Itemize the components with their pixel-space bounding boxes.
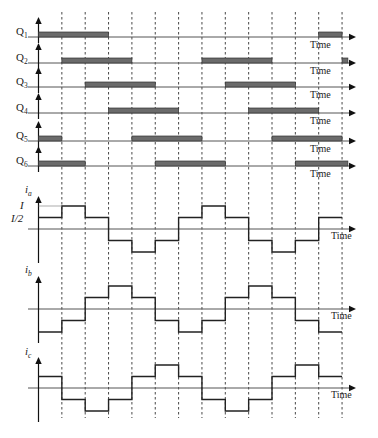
time-axis-label: Time bbox=[310, 168, 331, 179]
time-axis-label: Time bbox=[310, 39, 331, 50]
gate-signal-q6 bbox=[28, 151, 350, 172]
time-axis-label: Time bbox=[310, 89, 331, 100]
arrow-right-icon bbox=[349, 163, 356, 169]
current-label-ib: ib bbox=[25, 263, 32, 278]
arrow-right-icon bbox=[349, 84, 356, 90]
gate-on-pulse bbox=[272, 136, 342, 141]
current-label-ic: ic bbox=[25, 345, 32, 360]
gate-signal-q5 bbox=[28, 126, 350, 147]
time-axis-label: Time bbox=[331, 230, 352, 241]
arrow-right-icon bbox=[349, 60, 356, 66]
gate-on-pulse bbox=[249, 108, 319, 113]
time-axis-label: Time bbox=[310, 143, 331, 154]
arrow-right-icon bbox=[349, 110, 356, 116]
current-waveform-ib bbox=[28, 281, 350, 343]
gate-on-pulse bbox=[39, 136, 62, 141]
gate-on-pulse bbox=[85, 82, 155, 87]
time-axis-label: Time bbox=[331, 310, 352, 321]
current-waveform-ia bbox=[28, 201, 350, 263]
gate-label-q6: Q6 bbox=[16, 154, 28, 169]
arrow-right-icon bbox=[349, 34, 356, 40]
gate-on-pulse bbox=[202, 58, 272, 63]
gate-label-q2: Q2 bbox=[16, 51, 28, 66]
arrow-up-icon bbox=[35, 93, 41, 100]
gate-signal-q3 bbox=[28, 72, 350, 93]
arrow-right-icon bbox=[349, 138, 356, 144]
arrow-up-icon bbox=[35, 67, 41, 74]
gate-on-pulse bbox=[39, 32, 109, 37]
gate-label-q5: Q5 bbox=[16, 129, 28, 144]
current-waveform-ic bbox=[28, 362, 350, 422]
arrow-up-icon bbox=[35, 17, 41, 24]
arrow-up-icon bbox=[35, 121, 41, 128]
gate-signal-q2 bbox=[28, 48, 350, 69]
level-label-half-i: I/2 bbox=[10, 212, 24, 224]
time-axis-label: Time bbox=[310, 65, 331, 76]
gate-signal-q4 bbox=[28, 98, 350, 119]
arrow-up-icon bbox=[35, 196, 41, 203]
level-label-i: I bbox=[19, 199, 25, 211]
gate-on-pulse bbox=[225, 82, 295, 87]
gate-on-pulse bbox=[155, 161, 225, 166]
gate-on-pulse bbox=[39, 161, 86, 166]
time-axis-label: Time bbox=[310, 115, 331, 126]
gate-label-q1: Q1 bbox=[16, 25, 28, 40]
gate-on-pulse bbox=[132, 136, 202, 141]
gate-on-pulse bbox=[62, 58, 132, 63]
gate-on-pulse bbox=[319, 32, 342, 37]
gate-on-pulse bbox=[342, 58, 348, 63]
arrow-up-icon bbox=[35, 276, 41, 283]
arrow-up-icon bbox=[35, 357, 41, 364]
arrow-up-icon bbox=[35, 43, 41, 50]
gate-signal-q1 bbox=[28, 22, 350, 43]
inverter-timing-diagram: Q1TimeQ2TimeQ3TimeQ4TimeQ5TimeQ6TimeiaII… bbox=[0, 0, 378, 438]
time-axis-label: Time bbox=[331, 389, 352, 400]
gate-on-pulse bbox=[295, 161, 348, 166]
gate-on-pulse bbox=[109, 108, 179, 113]
arrow-up-icon bbox=[35, 146, 41, 153]
gate-label-q3: Q3 bbox=[16, 75, 28, 90]
current-label-ia: ia bbox=[25, 183, 32, 198]
timing-diagram-canvas: Q1TimeQ2TimeQ3TimeQ4TimeQ5TimeQ6TimeiaII… bbox=[0, 0, 378, 438]
gate-label-q4: Q4 bbox=[16, 101, 28, 116]
